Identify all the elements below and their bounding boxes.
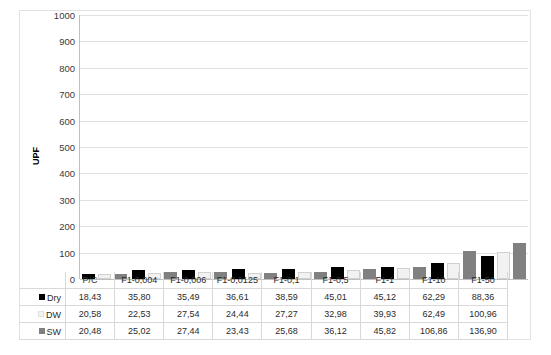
- table-cell-value: 36,61: [213, 289, 262, 306]
- legend-swatch-icon: [39, 294, 45, 300]
- bar-group: [279, 15, 329, 279]
- table-column-header: F1-10: [409, 272, 458, 289]
- table-cell-value: 18,43: [66, 289, 115, 306]
- legend-entry-dw: DW: [19, 306, 66, 323]
- y-axis-tick-label: 800: [59, 63, 75, 74]
- legend-corner-cell: [19, 272, 66, 289]
- bar-group: [428, 15, 478, 279]
- y-axis-tick-label: 400: [59, 168, 75, 179]
- bar-group: [130, 15, 180, 279]
- table-cell-value: 45,82: [360, 323, 409, 340]
- y-axis-tick-label: 900: [59, 36, 75, 47]
- table-cell-value: 35,80: [115, 289, 164, 306]
- bar-group: [329, 15, 379, 279]
- table-cell-value: 22,53: [115, 306, 164, 323]
- table-cell-value: 62,29: [409, 289, 458, 306]
- table-cell-value: 27,44: [164, 323, 213, 340]
- legend-swatch-icon: [39, 328, 45, 334]
- table-cell-value: 35,49: [164, 289, 213, 306]
- table-cell-value: 25,68: [262, 323, 311, 340]
- table-cell-value: 38,59: [262, 289, 311, 306]
- table-row: Dry18,4335,8035,4936,6138,5945,0145,1262…: [19, 289, 508, 306]
- data-table-head: P/CF1-0,004F1-0,006F1-0,0125F1-0,1F1-0,5…: [19, 272, 508, 289]
- table-cell-value: 45,01: [311, 289, 360, 306]
- table-cell-value: 27,27: [262, 306, 311, 323]
- legend-label: DW: [46, 309, 61, 319]
- bar-group: [478, 15, 528, 279]
- legend-swatch-icon: [38, 311, 44, 317]
- y-axis-tick-label: 700: [59, 89, 75, 100]
- table-cell-value: 106,86: [409, 323, 458, 340]
- y-axis-tick-label: 300: [59, 195, 75, 206]
- table-cell-value: 39,93: [360, 306, 409, 323]
- data-table: P/CF1-0,004F1-0,006F1-0,0125F1-0,1F1-0,5…: [19, 272, 508, 340]
- y-axis-tick-label: 200: [59, 221, 75, 232]
- table-cell-value: 27,54: [164, 306, 213, 323]
- bar-group: [80, 15, 130, 279]
- y-axis-tick-label: 100: [59, 248, 75, 259]
- table-cell-value: 25,02: [115, 323, 164, 340]
- table-column-header: F1-0,1: [262, 272, 311, 289]
- table-cell-value: 45,12: [360, 289, 409, 306]
- table-cell-value: 24,44: [213, 306, 262, 323]
- table-cell-value: 136,90: [458, 323, 507, 340]
- bars-layer: [80, 15, 528, 279]
- table-row: DW20,5822,5327,5424,4427,2732,9839,9362,…: [19, 306, 508, 323]
- legend-entry-dry: Dry: [19, 289, 66, 306]
- table-column-header: P/C: [66, 272, 115, 289]
- table-cell-value: 23,43: [213, 323, 262, 340]
- table-cell-value: 100,96: [458, 306, 507, 323]
- table-column-header: F1-50: [458, 272, 507, 289]
- table-cell-value: 62,49: [409, 306, 458, 323]
- table-cell-value: 36,12: [311, 323, 360, 340]
- table-column-header: F1-1: [360, 272, 409, 289]
- table-column-header: F1-0,5: [311, 272, 360, 289]
- table-cell-value: 20,58: [66, 306, 115, 323]
- legend-label: Dry: [47, 292, 61, 302]
- table-row: SW20,4825,0227,4423,4325,6836,1245,82106…: [19, 323, 508, 340]
- table-cell-value: 88,36: [458, 289, 507, 306]
- table-cell-value: 32,98: [311, 306, 360, 323]
- table-column-header: F1-0,0125: [213, 272, 262, 289]
- y-axis-tick-label: 500: [59, 142, 75, 153]
- bar-group: [229, 15, 279, 279]
- table-column-header: F1-0,006: [164, 272, 213, 289]
- bar-group: [180, 15, 230, 279]
- y-axis-title: UPF: [31, 136, 41, 176]
- table-cell-value: 20,48: [66, 323, 115, 340]
- y-axis-tick-label: 1000: [54, 10, 75, 21]
- legend-entry-sw: SW: [19, 323, 66, 340]
- y-axis-tick-label: 600: [59, 116, 75, 127]
- table-header-row: P/CF1-0,004F1-0,006F1-0,0125F1-0,1F1-0,5…: [19, 272, 508, 289]
- bar-sw: [513, 243, 526, 279]
- plot-area: 10009008007006005004003002001000: [79, 15, 528, 279]
- data-table-body: Dry18,4335,8035,4936,6138,5945,0145,1262…: [19, 289, 508, 340]
- table-column-header: F1-0,004: [115, 272, 164, 289]
- legend-label: SW: [47, 326, 62, 336]
- bar-group: [379, 15, 429, 279]
